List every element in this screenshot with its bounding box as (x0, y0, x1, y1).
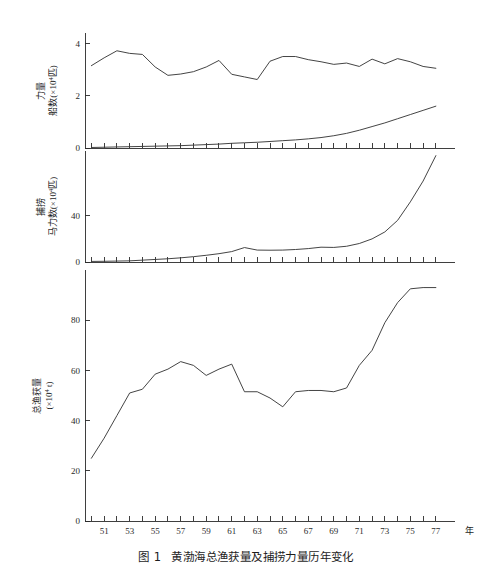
x-tick-label: 51 (100, 526, 109, 536)
caption-number: 图 1 (138, 550, 161, 564)
series-line (91, 156, 435, 262)
x-tick-label: 69 (329, 526, 339, 536)
y-axis-title-primary: 捕捞 (35, 198, 46, 216)
x-tick-label: 75 (406, 526, 416, 536)
x-tick-label: 59 (202, 526, 212, 536)
x-tick-label: 73 (380, 526, 390, 536)
y-axis-title-unit: 马力数(×104匹) (47, 177, 58, 236)
x-axis: 5153555759616365676971737577年 (100, 525, 474, 536)
y-axis-title-primary: 力量 (35, 82, 46, 100)
figure-root: 024力量船数(×104匹) 040捕捞马力数(×104匹) 020406080… (0, 0, 492, 582)
y-tick-label: 40 (71, 211, 81, 221)
y-axis-title-primary: 总渔获量 (31, 378, 42, 414)
x-tick-label: 57 (176, 526, 186, 536)
y-tick-label: 0 (76, 257, 81, 267)
y-tick-label: 80 (71, 315, 81, 325)
y-tick-label: 0 (76, 143, 81, 153)
series-line (91, 51, 435, 80)
x-tick-label: 71 (355, 526, 364, 536)
x-tick-label: 55 (151, 526, 161, 536)
x-tick-label: 63 (253, 526, 263, 536)
caption-text: 黄渤海总渔获量及捕捞力量历年变化 (171, 550, 353, 564)
y-tick-label: 60 (71, 366, 81, 376)
y-tick-label: 2 (76, 91, 81, 101)
figure-caption: 图 1黄渤海总渔获量及捕捞力量历年变化 (0, 548, 492, 564)
multi-panel-line-chart: 024力量船数(×104匹) 040捕捞马力数(×104匹) 020406080… (0, 0, 492, 582)
y-axis-title-unit: 船数(×104匹) (47, 65, 58, 115)
y-axis-title-unit: (×104 t) (43, 381, 54, 409)
x-tick-label: 67 (304, 526, 314, 536)
x-tick-label: 77 (431, 526, 441, 536)
y-tick-label: 0 (76, 516, 81, 526)
x-axis-unit-label: 年 (465, 525, 474, 536)
x-tick-label: 61 (227, 526, 236, 536)
panel-fishing-power: 024力量船数(×104匹) (35, 33, 455, 153)
x-tick-label: 53 (125, 526, 135, 536)
y-tick-label: 4 (76, 39, 81, 49)
y-tick-label: 40 (71, 416, 81, 426)
series-line (91, 288, 435, 459)
series-line (91, 106, 435, 147)
x-tick-label: 65 (278, 526, 288, 536)
y-tick-label: 20 (71, 466, 81, 476)
panel-total-catch: 020406080总渔获量(×104 t) (31, 270, 455, 526)
panel-fishing-effort: 040捕捞马力数(×104匹) (35, 151, 455, 267)
